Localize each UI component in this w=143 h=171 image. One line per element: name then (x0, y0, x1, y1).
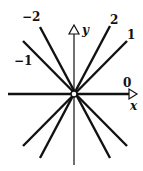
y-axis-label: y (82, 24, 89, 36)
origin-marker (71, 91, 77, 97)
label-slope-neg2: −2 (22, 11, 40, 23)
line-family-diagram (0, 0, 143, 171)
x-axis-arrow-icon (129, 89, 137, 99)
x-axis-label: x (130, 100, 137, 112)
label-slope-0: 0 (123, 77, 131, 89)
label-slope-neg1: −1 (14, 55, 32, 67)
label-slope-1: 1 (127, 29, 135, 41)
label-slope-2: 2 (110, 14, 118, 26)
y-axis-arrow-icon (69, 25, 79, 34)
